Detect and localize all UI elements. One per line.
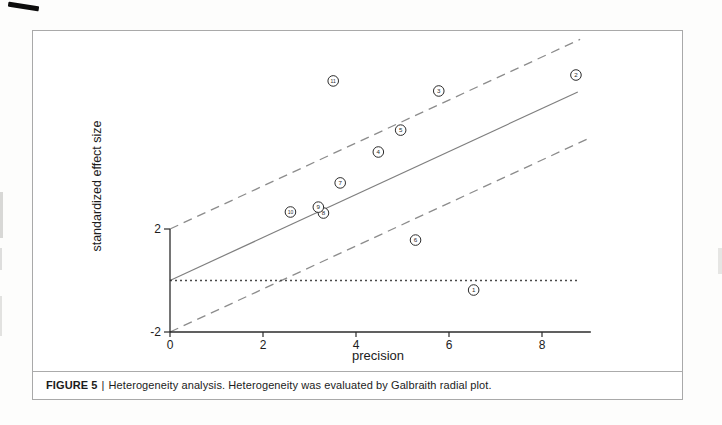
- study-point-label-7: 7: [338, 179, 342, 186]
- study-point-label-6: 6: [414, 236, 418, 243]
- y-axis-label: standardized effect size: [90, 120, 104, 251]
- galbraith-radial-plot: 024682-2precisionstandardized effect siz…: [0, 0, 722, 425]
- x-axis-label: precision: [352, 348, 404, 363]
- figure-caption-text: Heterogeneity analysis. Heterogeneity wa…: [109, 379, 492, 391]
- x-tick-label: 8: [539, 338, 546, 352]
- figure-caption: FIGURE 5|Heterogeneity analysis. Heterog…: [46, 379, 666, 391]
- y-tick-label: 2: [154, 222, 161, 236]
- scanned-paper-page: 024682-2precisionstandardized effect siz…: [0, 0, 722, 425]
- study-point-label-10: 10: [288, 209, 294, 215]
- y-tick-label: -2: [150, 325, 161, 339]
- x-tick-label: 6: [446, 338, 453, 352]
- figure-caption-label: FIGURE 5: [46, 379, 98, 391]
- study-point-label-1: 1: [472, 286, 476, 293]
- study-point-label-9: 9: [317, 203, 321, 210]
- study-point-label-3: 3: [437, 87, 441, 94]
- caption-divider: [32, 371, 683, 372]
- study-point-label-11: 11: [331, 78, 336, 84]
- study-point-label-4: 4: [377, 148, 381, 155]
- figure-caption-separator: |: [98, 379, 109, 391]
- study-point-label-5: 5: [399, 126, 403, 133]
- x-tick-label: 0: [167, 338, 174, 352]
- regression-line: [170, 92, 578, 281]
- study-point-label-2: 2: [574, 71, 578, 78]
- lower-band-line: [170, 137, 591, 332]
- upper-band-line: [170, 39, 580, 229]
- x-tick-label: 2: [260, 338, 267, 352]
